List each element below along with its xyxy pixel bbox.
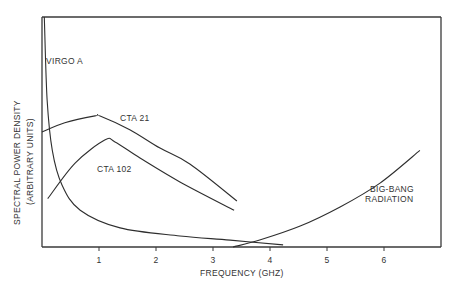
x-tick-label-1: 1 — [96, 255, 101, 265]
series-label-big-bang-1: BIG-BANG — [370, 184, 414, 194]
series-label-virgo-a: VIRGO A — [46, 56, 83, 66]
spectral-chart: 123456 VIRGO A CTA 21 CTA 102 BIG-BANG R… — [0, 0, 454, 288]
series-line-cta-102 — [48, 138, 234, 210]
series-label-cta-21: CTA 21 — [120, 113, 150, 123]
plot-frame — [42, 17, 441, 247]
y-axis-label-line2: (ARBITRARY UNITS) — [25, 118, 35, 205]
x-tick-label-3: 3 — [210, 255, 215, 265]
x-axis-label: FREQUENCY (GHZ) — [200, 268, 284, 278]
y-axis-label-line1: SPECTRAL POWER DENSITY — [12, 100, 22, 225]
x-tick-label-6: 6 — [381, 255, 386, 265]
x-tick-label-4: 4 — [267, 255, 272, 265]
series-label-big-bang-2: RADIATION — [365, 194, 413, 204]
series-label-cta-102: CTA 102 — [97, 164, 132, 174]
x-tick-label-2: 2 — [153, 255, 158, 265]
series-line-virgo-a — [44, 17, 283, 245]
x-tick-label-5: 5 — [324, 255, 329, 265]
